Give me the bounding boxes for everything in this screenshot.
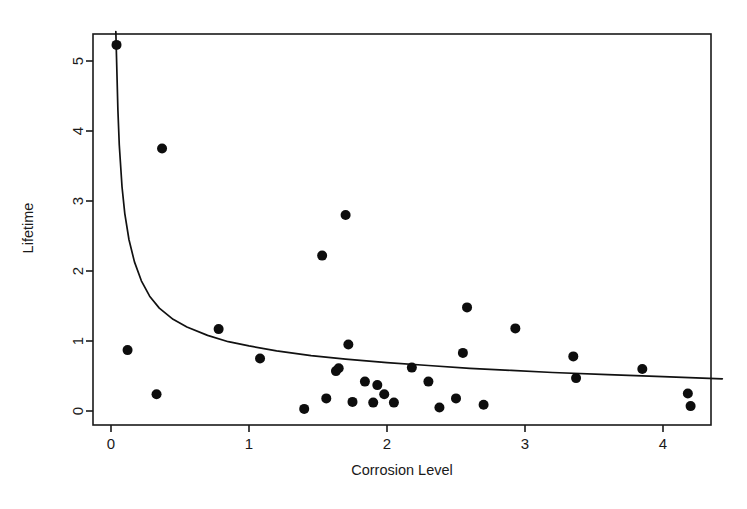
data-point xyxy=(317,251,327,261)
x-tick-label: 3 xyxy=(521,435,529,452)
scatter-plot-figure: 01234 012345 Corrosion Level Lifetime xyxy=(0,0,747,509)
data-point xyxy=(571,373,581,383)
y-tick-label: 2 xyxy=(69,267,86,275)
data-point xyxy=(510,323,520,333)
data-point xyxy=(379,389,389,399)
data-point xyxy=(123,345,133,355)
data-point xyxy=(372,380,382,390)
figure-background xyxy=(0,0,747,509)
plot-canvas: 01234 012345 Corrosion Level Lifetime xyxy=(0,0,747,509)
y-axis-title: Lifetime xyxy=(20,203,36,254)
data-point xyxy=(334,363,344,373)
data-point xyxy=(389,398,399,408)
data-point xyxy=(360,377,370,387)
data-point xyxy=(568,351,578,361)
data-point xyxy=(407,363,417,373)
data-point xyxy=(686,401,696,411)
y-tick-label: 1 xyxy=(69,337,86,345)
x-tick-label: 1 xyxy=(245,435,253,452)
y-tick-label: 3 xyxy=(69,197,86,205)
data-point xyxy=(299,404,309,414)
data-point xyxy=(321,393,331,403)
data-point xyxy=(479,400,489,410)
data-point xyxy=(157,144,167,154)
data-point xyxy=(683,389,693,399)
data-point xyxy=(341,210,351,220)
x-tick-label: 4 xyxy=(659,435,667,452)
data-point xyxy=(434,403,444,413)
x-axis-title: Corrosion Level xyxy=(351,462,453,478)
data-point xyxy=(255,354,265,364)
y-tick-label: 4 xyxy=(69,127,86,135)
x-tick-label: 2 xyxy=(383,435,391,452)
data-point xyxy=(462,302,472,312)
y-tick-label: 5 xyxy=(69,57,86,65)
data-point xyxy=(423,377,433,387)
y-tick-label: 0 xyxy=(69,407,86,415)
data-point xyxy=(343,340,353,350)
data-point xyxy=(637,364,647,374)
data-point xyxy=(451,393,461,403)
x-tick-label: 0 xyxy=(107,435,115,452)
data-point xyxy=(152,389,162,399)
data-point xyxy=(348,397,358,407)
data-point xyxy=(458,348,468,358)
data-point xyxy=(368,398,378,408)
data-point xyxy=(214,324,224,334)
data-point xyxy=(112,40,122,50)
